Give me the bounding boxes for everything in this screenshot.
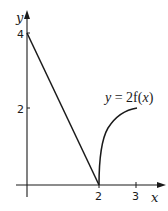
curve-equation-label: y = 2f(x): [103, 90, 154, 106]
tick-label-x-2: 2: [95, 190, 102, 203]
linear-segment: [27, 33, 99, 185]
x-axis-label: x: [151, 190, 159, 205]
y-axis-label: y: [15, 10, 24, 25]
tick-label-y-4: 4: [17, 28, 24, 41]
y-axis-arrow-icon: [24, 10, 30, 19]
eq-mid: = 2f(: [111, 90, 143, 106]
tick-label-x-3: 3: [132, 190, 139, 203]
function-graph: y x 4 2 2 3 y = 2f(x): [0, 0, 168, 211]
eq-close: ): [149, 90, 154, 106]
x-axis-arrow-icon: [157, 182, 166, 188]
tick-label-y-2: 2: [17, 103, 24, 116]
curved-segment: [99, 108, 137, 185]
